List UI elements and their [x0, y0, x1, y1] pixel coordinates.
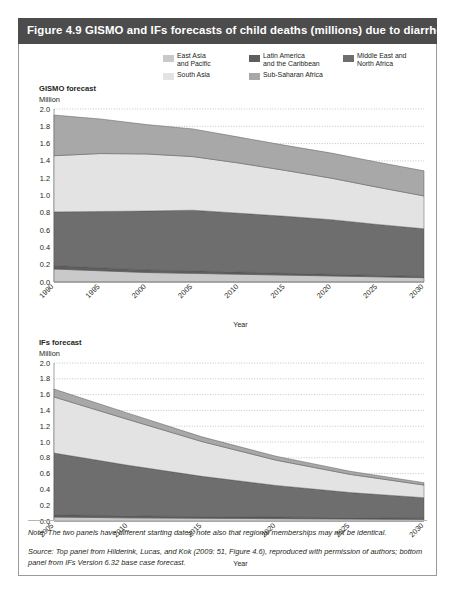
svg-text:2005: 2005 [176, 282, 194, 300]
legend-label: Sub-Saharan Africa [263, 71, 323, 79]
legend-item-east-asia-and-pacific[interactable]: East Asiaand Pacific [163, 52, 249, 69]
legend-swatch-icon [343, 55, 354, 62]
y-tick-label: 0.2 [40, 501, 50, 510]
y-tick-label: 1.0 [40, 438, 50, 447]
svg-text:2030: 2030 [407, 282, 425, 300]
legend-item-latin-america-and-the-caribbean[interactable]: Latin Americaand the Caribbean [249, 52, 343, 69]
svg-text:2025: 2025 [361, 282, 379, 300]
panel-title-gismo: GISMO forecast [39, 84, 427, 93]
legend-swatch-icon [249, 55, 260, 62]
y-tick-label: 1.2 [40, 422, 50, 431]
y-tick-label: 0.8 [40, 454, 50, 463]
figure-notes: Note: The two panels have different star… [28, 520, 427, 568]
note-text: Note: The two panels have different star… [28, 527, 427, 538]
y-tick-label: 0.2 [40, 261, 50, 270]
y-tick-label: 1.8 [40, 122, 50, 131]
x-tick-label: 2010 [222, 282, 240, 300]
y-tick-label: 1.4 [40, 406, 50, 415]
svg-text:2015: 2015 [269, 282, 287, 300]
y-tick-label: 0.6 [40, 469, 50, 478]
y-tick-label: 0.6 [40, 226, 50, 235]
legend-item-sub-saharan-africa[interactable]: Sub-Saharan Africa [249, 71, 343, 81]
svg-text:2000: 2000 [130, 282, 148, 300]
legend-item-south-asia[interactable]: South Asia [163, 71, 249, 81]
x-tick-label: 2030 [407, 282, 425, 300]
y-tick-label: 2.0 [40, 359, 50, 368]
panel-gismo-forecast: GISMO forecast Million 0.00.20.40.60.81.… [28, 84, 427, 329]
x-tick-label: 2025 [361, 282, 379, 300]
y-tick-label: 1.8 [40, 375, 50, 384]
y-tick-label: 2.0 [40, 105, 50, 114]
x-tick-label: 2000 [130, 282, 148, 300]
x-tick-label: 2020 [315, 282, 333, 300]
figure-body: East Asiaand PacificLatin Americaand the… [18, 44, 437, 576]
chart-legend: East Asiaand PacificLatin Americaand the… [163, 52, 421, 80]
legend-swatch-icon [249, 73, 260, 80]
y-tick-label: 1.6 [40, 390, 50, 399]
plot-svg-gismo: 0.00.20.40.60.81.01.21.41.61.82.01990199… [28, 105, 428, 320]
y-tick-label: 1.0 [40, 191, 50, 200]
xlabel-gismo: Year [54, 321, 427, 329]
legend-swatch-icon [163, 73, 174, 80]
legend-label: Middle East andNorth Africa [357, 52, 406, 69]
legend-swatch-icon [163, 55, 174, 62]
legend-label: Latin Americaand the Caribbean [263, 52, 320, 69]
svg-text:2020: 2020 [315, 282, 333, 300]
legend-item-middle-east-and-north-africa[interactable]: Middle East andNorth Africa [343, 52, 421, 69]
panel-title-ifs: IFs forecast [39, 338, 427, 347]
notes-divider [28, 520, 427, 521]
axis-unit-gismo: Million [39, 95, 427, 104]
y-tick-label: 1.4 [40, 157, 50, 166]
legend-label: East Asiaand Pacific [177, 52, 211, 69]
x-tick-label: 2005 [176, 282, 194, 300]
axis-unit-ifs: Million [39, 349, 427, 358]
svg-text:2010: 2010 [222, 282, 240, 300]
plot-gismo: 0.00.20.40.60.81.01.21.41.61.82.01990199… [28, 105, 427, 320]
y-tick-label: 0.4 [40, 243, 50, 252]
legend-label: South Asia [177, 71, 210, 79]
svg-text:1995: 1995 [84, 282, 102, 300]
x-tick-label: 1995 [84, 282, 102, 300]
y-tick-label: 0.4 [40, 485, 50, 494]
figure-page: Figure 4.9 GISMO and IFs forecasts of ch… [0, 0, 451, 589]
y-tick-label: 1.6 [40, 139, 50, 148]
source-text: Source: Top panel from Hilderink, Lucas,… [28, 546, 427, 568]
figure-title: Figure 4.9 GISMO and IFs forecasts of ch… [18, 18, 437, 44]
x-tick-label: 2015 [269, 282, 287, 300]
figure-container: Figure 4.9 GISMO and IFs forecasts of ch… [18, 18, 437, 576]
y-tick-label: 0.8 [40, 209, 50, 218]
y-tick-label: 1.2 [40, 174, 50, 183]
